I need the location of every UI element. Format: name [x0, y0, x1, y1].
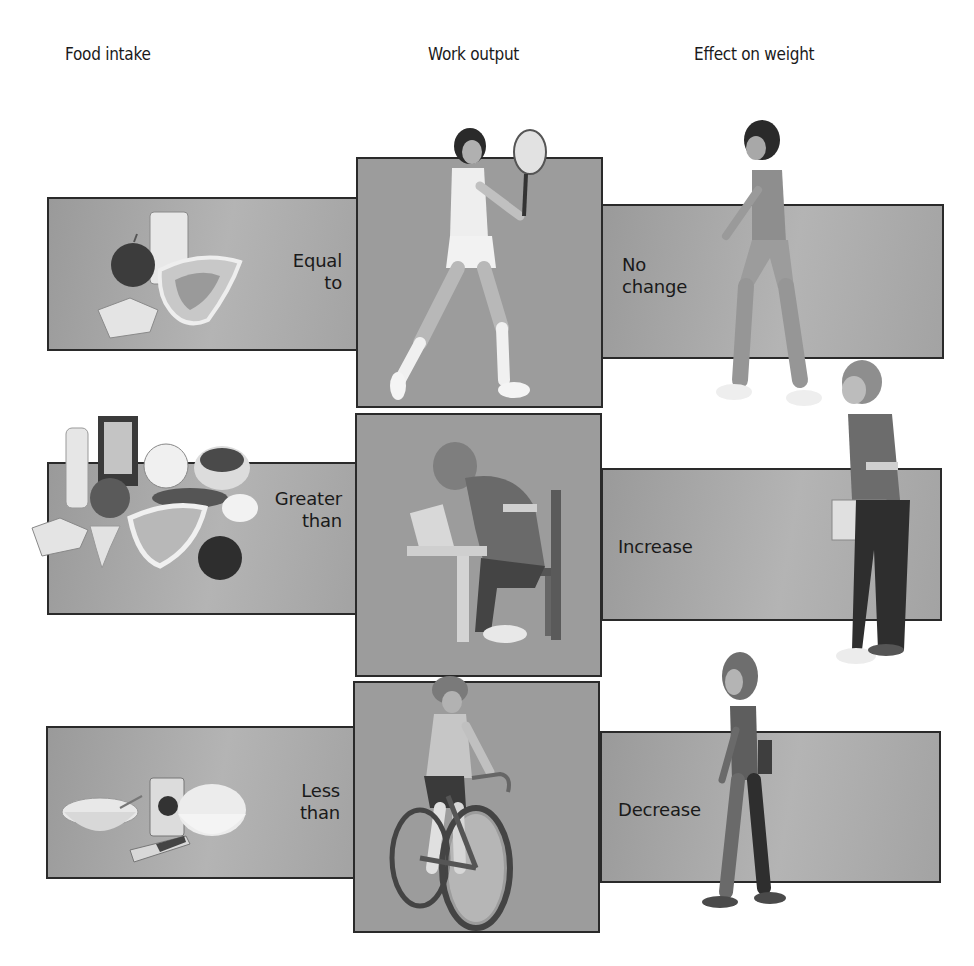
person-no-change-illustration [712, 118, 822, 418]
food-greater-illustration [30, 408, 260, 588]
comparison-label-less: Less than [270, 780, 340, 824]
comparison-label-greater: Greater than [250, 488, 342, 532]
comparison-label-equal: Equal to [260, 250, 342, 294]
comparison-line: Greater [250, 488, 342, 510]
person-increase-illustration [822, 360, 912, 670]
person-decrease-illustration [698, 650, 788, 920]
comparison-line: than [250, 510, 342, 532]
comparison-line: than [270, 802, 340, 824]
effect-label-increase: Increase [618, 536, 693, 558]
food-equal-illustration [90, 210, 250, 340]
comparison-line: to [260, 272, 342, 294]
comparison-line: Equal [260, 250, 342, 272]
header-effect-on-weight: Effect on weight [694, 44, 814, 64]
effect-label-decrease: Decrease [618, 799, 701, 821]
header-food-intake: Food intake [65, 44, 151, 64]
header-work-output: Work output [428, 44, 519, 64]
effect-label-no-change: No change [622, 254, 687, 298]
cyclist-illustration [380, 668, 560, 948]
effect-line: Increase [618, 536, 693, 558]
comparison-line: Less [270, 780, 340, 802]
effect-line: change [622, 276, 687, 298]
student-reading-illustration [405, 438, 575, 648]
effect-line: Decrease [618, 799, 701, 821]
effect-line: No [622, 254, 687, 276]
tennis-player-illustration [380, 118, 550, 408]
food-less-illustration [60, 770, 260, 870]
